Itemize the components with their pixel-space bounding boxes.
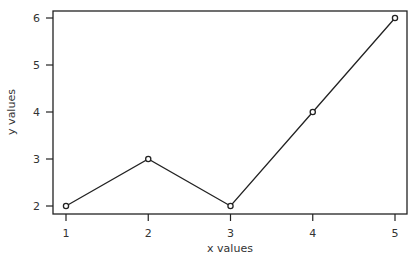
y-tick-label: 6 (33, 12, 40, 25)
y-tick-label: 5 (33, 59, 40, 72)
y-axis-label: y values (5, 89, 18, 135)
x-tick-label: 5 (392, 227, 399, 240)
x-tick-label: 2 (145, 227, 152, 240)
x-tick-label: 3 (227, 227, 234, 240)
line-chart: 23456 12345 x values y values (0, 0, 411, 261)
data-line (66, 18, 395, 206)
x-axis: 12345 (63, 214, 399, 240)
data-point-marker (63, 203, 68, 208)
y-tick-label: 4 (33, 106, 40, 119)
y-axis: 23456 (33, 12, 53, 213)
y-tick-label: 3 (33, 153, 40, 166)
data-point-marker (146, 156, 151, 161)
data-point-marker (310, 109, 315, 114)
data-point-marker (228, 203, 233, 208)
data-point-marker (392, 15, 397, 20)
data-markers (63, 15, 397, 208)
y-tick-label: 2 (33, 200, 40, 213)
x-axis-label: x values (207, 242, 253, 255)
x-tick-label: 1 (63, 227, 70, 240)
x-tick-label: 4 (309, 227, 316, 240)
